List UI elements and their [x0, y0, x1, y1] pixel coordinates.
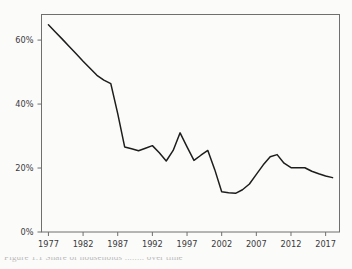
- x-axis-labels: 197719821987199219972002200720122017: [38, 239, 336, 249]
- x-tick-label: 2007: [246, 239, 267, 249]
- chart-background: [0, 0, 352, 269]
- chart-figure: 0%20%40%60% 1977198219871992199720022007…: [0, 0, 352, 269]
- caption-text: Figure 1.1 Share of households ........ …: [4, 257, 183, 262]
- x-tick-label: 1982: [73, 239, 94, 249]
- x-tick-label: 1977: [38, 239, 59, 249]
- y-tick-label: 20%: [15, 163, 33, 173]
- x-tick-label: 2017: [315, 239, 336, 249]
- line-chart: 0%20%40%60% 1977198219871992199720022007…: [0, 0, 352, 269]
- x-tick-label: 1987: [107, 239, 128, 249]
- y-tick-label: 60%: [15, 35, 33, 45]
- x-tick-label: 1992: [142, 239, 163, 249]
- y-tick-label: 40%: [15, 99, 33, 109]
- x-tick-label: 1997: [177, 239, 198, 249]
- caption-strip: Figure 1.1 Share of households ........ …: [0, 257, 352, 269]
- y-tick-label: 0%: [21, 227, 34, 237]
- x-tick-label: 2002: [211, 239, 232, 249]
- x-tick-label: 2012: [281, 239, 302, 249]
